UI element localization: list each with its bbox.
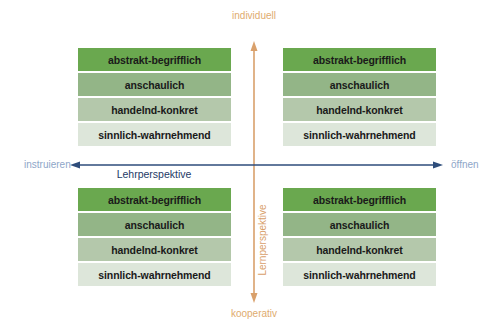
arrow-up-icon xyxy=(251,41,258,51)
band-anschaulich: anschaulich xyxy=(78,73,231,96)
quadrant-top-left: abstrakt-begrifflich anschaulich handeln… xyxy=(78,48,231,146)
band-handelnd-konkret: handelnd-konkret xyxy=(283,238,436,261)
band-anschaulich: anschaulich xyxy=(283,73,436,96)
axis-label-oeffnen: öffnen xyxy=(451,159,479,170)
axis-title-lernperspektive: Lernperspektive xyxy=(257,204,268,275)
band-abstrakt-begrifflich: abstrakt-begrifflich xyxy=(78,188,231,211)
quadrant-bottom-left: abstrakt-begrifflich anschaulich handeln… xyxy=(78,188,231,286)
band-sinnlich-wahrnehmend: sinnlich-wahrnehmend xyxy=(283,123,436,146)
arrow-right-icon xyxy=(433,162,443,169)
band-sinnlich-wahrnehmend: sinnlich-wahrnehmend xyxy=(283,263,436,286)
arrow-down-icon xyxy=(251,293,258,303)
band-abstrakt-begrifflich: abstrakt-begrifflich xyxy=(283,188,436,211)
band-handelnd-konkret: handelnd-konkret xyxy=(283,98,436,121)
axis-label-kooperativ: kooperativ xyxy=(231,308,277,319)
arrow-left-icon xyxy=(70,162,80,169)
axis-label-instruieren: instruieren xyxy=(24,159,71,170)
quadrant-bottom-right: abstrakt-begrifflich anschaulich handeln… xyxy=(283,188,436,286)
band-handelnd-konkret: handelnd-konkret xyxy=(78,98,231,121)
band-anschaulich: anschaulich xyxy=(78,213,231,236)
axis-title-lehrperspektive: Lehrperspektive xyxy=(117,168,192,180)
quadrant-top-right: abstrakt-begrifflich anschaulich handeln… xyxy=(283,48,436,146)
axis-label-individuell: individuell xyxy=(232,10,276,21)
band-anschaulich: anschaulich xyxy=(283,213,436,236)
band-sinnlich-wahrnehmend: sinnlich-wahrnehmend xyxy=(78,263,231,286)
band-sinnlich-wahrnehmend: sinnlich-wahrnehmend xyxy=(78,123,231,146)
band-handelnd-konkret: handelnd-konkret xyxy=(78,238,231,261)
band-abstrakt-begrifflich: abstrakt-begrifflich xyxy=(78,48,231,71)
band-abstrakt-begrifflich: abstrakt-begrifflich xyxy=(283,48,436,71)
